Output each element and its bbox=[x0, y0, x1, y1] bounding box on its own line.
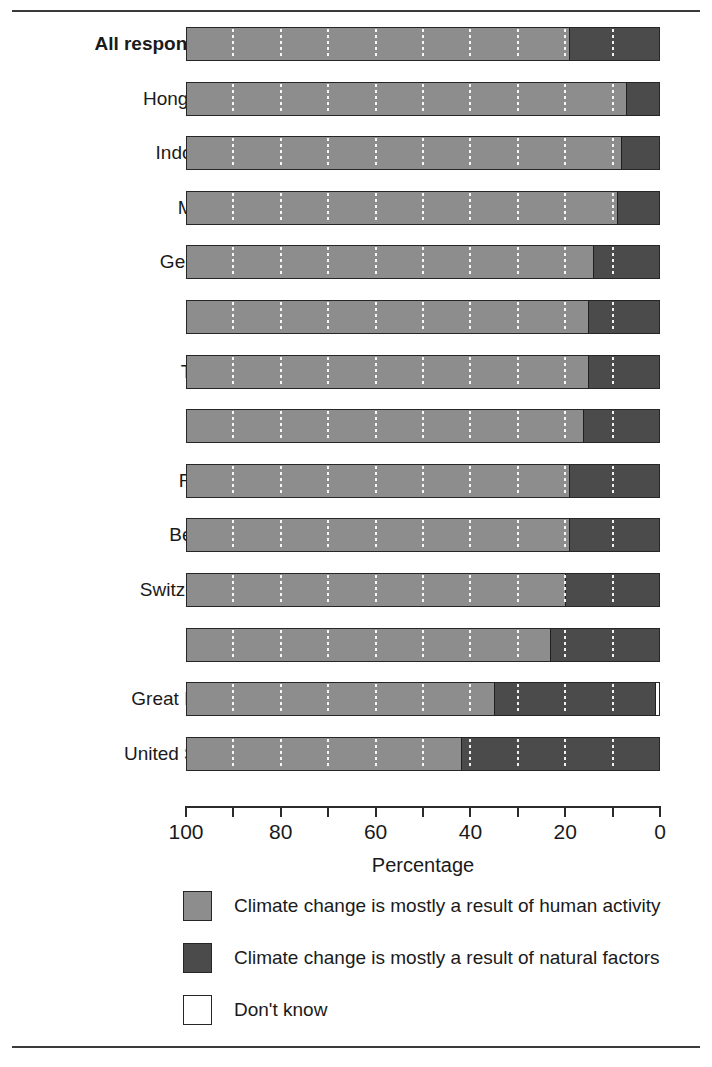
bar-segment bbox=[187, 137, 621, 169]
legend-item: Climate change is mostly a result of hum… bbox=[183, 880, 703, 932]
legend-swatch bbox=[183, 891, 212, 921]
legend-item: Climate change is mostly a result of nat… bbox=[183, 932, 703, 984]
stacked-bar bbox=[186, 464, 660, 498]
chart-row: France bbox=[0, 463, 712, 499]
axis-tick bbox=[327, 806, 329, 817]
bar-segment bbox=[187, 28, 569, 60]
axis-tick-label: 0 bbox=[620, 820, 700, 844]
x-axis: 100806040200 Percentage bbox=[0, 806, 712, 876]
bottom-divider-rule bbox=[12, 1046, 700, 1048]
bar-segment bbox=[588, 356, 660, 388]
chart-row: Italy bbox=[0, 408, 712, 444]
bar-segment bbox=[588, 301, 660, 333]
stacked-bar bbox=[186, 245, 660, 279]
bar-segment bbox=[187, 301, 588, 333]
axis-tick bbox=[469, 806, 471, 817]
axis-tick bbox=[185, 806, 187, 817]
chart-row: Belgium bbox=[0, 517, 712, 553]
chart-row: Germany bbox=[0, 244, 712, 280]
stacked-bar bbox=[186, 82, 660, 116]
axis-tick-label: 60 bbox=[336, 820, 416, 844]
chart-row: United States bbox=[0, 736, 712, 772]
axis-tick bbox=[280, 806, 282, 817]
bar-segment bbox=[569, 28, 660, 60]
bar-segment bbox=[187, 356, 588, 388]
axis-tick-label: 80 bbox=[241, 820, 321, 844]
bar-segment bbox=[187, 83, 626, 115]
bar-segment bbox=[617, 192, 660, 224]
legend-swatch bbox=[183, 943, 212, 973]
axis-tick bbox=[517, 806, 519, 817]
bar-segment bbox=[187, 410, 583, 442]
chart-row: All respondents bbox=[0, 26, 712, 62]
chart-row: Switzerland bbox=[0, 572, 712, 608]
stacked-bar bbox=[186, 573, 660, 607]
bar-segment bbox=[593, 246, 660, 278]
bar-segment bbox=[569, 465, 660, 497]
legend-item: Don't know bbox=[183, 984, 703, 1036]
chart-row: Japan bbox=[0, 627, 712, 663]
stacked-bar bbox=[186, 355, 660, 389]
chart-row: Spain bbox=[0, 299, 712, 335]
legend-swatch bbox=[183, 995, 212, 1025]
axis-tick bbox=[612, 806, 614, 817]
axis-tick-label: 40 bbox=[430, 820, 510, 844]
bar-segment bbox=[583, 410, 660, 442]
bar-segment bbox=[621, 137, 660, 169]
bar-segment bbox=[187, 738, 461, 770]
chart-row: Great Britain bbox=[0, 681, 712, 717]
axis-tick-label: 100 bbox=[146, 820, 226, 844]
bar-segment bbox=[626, 83, 660, 115]
stacked-bar bbox=[186, 300, 660, 334]
stacked-bar bbox=[186, 628, 660, 662]
stacked-bar bbox=[186, 136, 660, 170]
axis-tick bbox=[564, 806, 566, 817]
x-axis-title: Percentage bbox=[186, 854, 660, 877]
legend-label: Don't know bbox=[234, 999, 327, 1021]
bar-segment bbox=[187, 192, 617, 224]
bar-segment bbox=[494, 683, 655, 715]
stacked-bar bbox=[186, 682, 660, 716]
stacked-bar bbox=[186, 518, 660, 552]
top-divider-rule bbox=[12, 10, 700, 12]
bar-segment bbox=[187, 629, 550, 661]
bar-segment bbox=[187, 519, 569, 551]
chart-row: Mexico bbox=[0, 190, 712, 226]
axis-tick bbox=[375, 806, 377, 817]
bar-segment bbox=[550, 629, 660, 661]
stacked-bar bbox=[186, 191, 660, 225]
axis-tick-label: 20 bbox=[525, 820, 605, 844]
bar-segment bbox=[565, 574, 660, 606]
stacked-bar bbox=[186, 409, 660, 443]
bar-segment bbox=[187, 683, 494, 715]
legend-label: Climate change is mostly a result of nat… bbox=[234, 947, 660, 969]
bar-segment bbox=[655, 683, 660, 715]
chart-row: Indonesia bbox=[0, 135, 712, 171]
stacked-bar bbox=[186, 27, 660, 61]
chart-row: Hong Kong bbox=[0, 81, 712, 117]
chart-row: Turkey bbox=[0, 354, 712, 390]
chart-legend: Climate change is mostly a result of hum… bbox=[183, 880, 703, 1036]
stacked-bar bbox=[186, 737, 660, 771]
legend-label: Climate change is mostly a result of hum… bbox=[234, 895, 661, 917]
bar-segment bbox=[187, 574, 565, 606]
axis-tick bbox=[422, 806, 424, 817]
stacked-bar-chart-plot: All respondentsHong KongIndonesiaMexicoG… bbox=[0, 26, 712, 786]
bar-segment bbox=[569, 519, 660, 551]
axis-tick bbox=[232, 806, 234, 817]
bar-segment bbox=[187, 246, 593, 278]
bar-segment bbox=[187, 465, 569, 497]
bar-segment bbox=[461, 738, 660, 770]
axis-tick bbox=[659, 806, 661, 817]
